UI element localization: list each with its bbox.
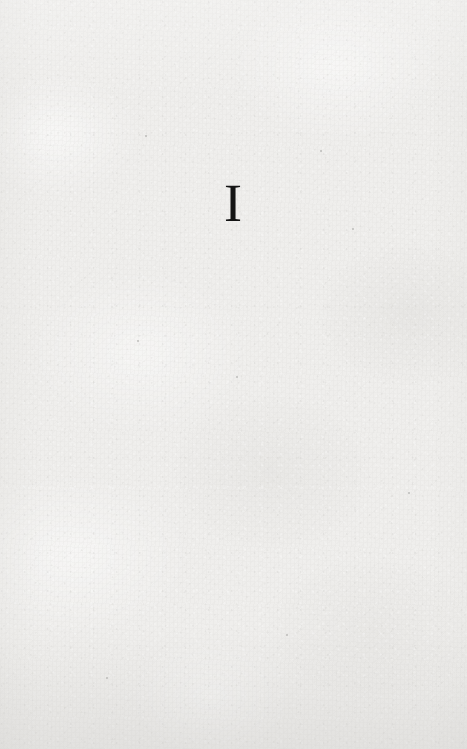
paper-vignette [0,0,467,749]
paper-speck [236,376,238,378]
part-numeral-block: I [0,176,467,230]
paper-speck [320,150,322,152]
part-numeral: I [224,176,243,230]
paper-speck [106,677,108,679]
paper-speck [286,634,288,636]
part-title-page: I [0,0,467,749]
paper-speck [408,492,410,494]
paper-speck [137,340,139,342]
paper-speck [145,135,147,137]
